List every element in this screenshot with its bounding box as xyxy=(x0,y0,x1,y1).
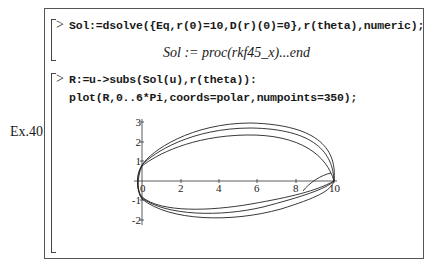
svg-text:-1: -1 xyxy=(132,194,141,206)
svg-text:0: 0 xyxy=(140,182,146,194)
polar-plot[interactable]: 0 2 4 6 8 10 3 2 1 -1 -2 xyxy=(45,9,425,260)
svg-text:4: 4 xyxy=(216,182,222,194)
svg-text:3: 3 xyxy=(136,116,142,128)
orbit-1 xyxy=(137,123,334,209)
svg-text:6: 6 xyxy=(254,182,260,194)
svg-text:2: 2 xyxy=(136,136,142,148)
orbit-curves xyxy=(137,123,334,218)
svg-text:-2: -2 xyxy=(132,214,141,226)
example-label: Ex.40 xyxy=(10,124,43,140)
svg-text:1: 1 xyxy=(136,155,142,167)
maple-worksheet: > Sol:=dsolve({Eq,r(0)=10,D(r)(0)=0},r(t… xyxy=(44,8,424,259)
svg-text:2: 2 xyxy=(178,182,184,194)
orbit-2 xyxy=(137,128,334,213)
plot-axes xyxy=(134,119,337,225)
svg-text:8: 8 xyxy=(293,182,299,194)
orbit-3 xyxy=(138,135,334,218)
